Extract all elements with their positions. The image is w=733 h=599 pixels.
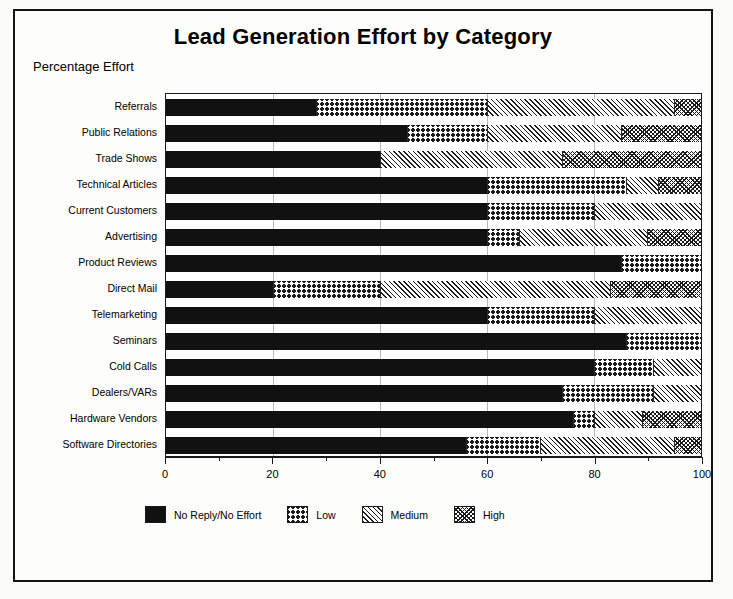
bar-segment [653, 359, 701, 376]
legend-item: Low [287, 506, 335, 523]
bar-segment [653, 385, 701, 402]
category-label: Cold Calls [15, 353, 163, 379]
bar-segment [674, 437, 701, 454]
category-label: Seminars [15, 327, 163, 353]
diagonal-hatch-swatch [362, 506, 383, 523]
stacked-bar [166, 177, 701, 194]
bar-segment [166, 359, 594, 376]
bar-segment [316, 99, 487, 116]
bar-segment [466, 437, 541, 454]
bar-segment [610, 281, 701, 298]
bar-segment [594, 203, 701, 220]
x-tick-major [272, 457, 273, 464]
x-tick-major [165, 457, 166, 464]
legend-item: Medium [362, 506, 428, 523]
x-tick-label: 60 [481, 468, 493, 480]
x-tick-major [487, 457, 488, 464]
category-label: Advertising [15, 223, 163, 249]
bar-segment [674, 99, 701, 116]
bar-segment [166, 333, 626, 350]
category-label: Referrals [15, 93, 163, 119]
stacked-bar [166, 411, 701, 428]
bar-row [166, 94, 701, 120]
bar-segment [166, 99, 316, 116]
stacked-bar [166, 99, 701, 116]
bar-segment [166, 307, 487, 324]
bar-row [166, 276, 701, 302]
bar-segment [166, 229, 487, 246]
bar-segment [407, 125, 487, 142]
bar-row [166, 250, 701, 276]
stacked-bar [166, 125, 701, 142]
category-label: Trade Shows [15, 145, 163, 171]
chart-frame: Lead Generation Effort by Category Perce… [13, 9, 713, 582]
bar-row [166, 328, 701, 354]
stacked-bar [166, 385, 701, 402]
bar-row [166, 302, 701, 328]
category-label: Software Directories [15, 431, 163, 457]
stacked-bar [166, 307, 701, 324]
legend-label: No Reply/No Effort [174, 509, 261, 521]
category-label: Public Relations [15, 119, 163, 145]
bar-row [166, 380, 701, 406]
category-label: Telemarketing [15, 301, 163, 327]
dense-hatch-swatch [454, 506, 475, 523]
bar-row [166, 120, 701, 146]
bar-segment [594, 411, 642, 428]
bar-segment [166, 255, 621, 272]
bar-segment [626, 333, 701, 350]
bar-segment [658, 177, 701, 194]
bar-segment [562, 385, 653, 402]
category-label: Product Reviews [15, 249, 163, 275]
stacked-bar [166, 281, 701, 298]
x-tick-minor [219, 457, 220, 461]
bar-segment [487, 177, 626, 194]
bar-segment [540, 437, 674, 454]
bar-segment [380, 151, 562, 168]
chart-page: Lead Generation Effort by Category Perce… [0, 0, 733, 599]
stacked-bar [166, 229, 701, 246]
bar-segment [626, 177, 658, 194]
chart-legend: No Reply/No EffortLowMediumHigh [145, 506, 531, 523]
bar-segment [621, 255, 701, 272]
stacked-bar [166, 151, 701, 168]
bar-segment [573, 411, 594, 428]
category-axis: ReferralsPublic RelationsTrade ShowsTech… [15, 93, 163, 457]
category-label: Current Customers [15, 197, 163, 223]
stacked-bar [166, 255, 701, 272]
x-tick-minor [648, 457, 649, 461]
bar-row [166, 198, 701, 224]
bar-segment [166, 177, 487, 194]
x-tick-minor [541, 457, 542, 461]
category-label: Technical Articles [15, 171, 163, 197]
x-tick-label: 40 [374, 468, 386, 480]
bar-segment [380, 281, 610, 298]
bar-row [166, 146, 701, 172]
category-label: Hardware Vendors [15, 405, 163, 431]
x-tick-minor [326, 457, 327, 461]
bar-segment [642, 411, 701, 428]
category-label: Direct Mail [15, 275, 163, 301]
bar-segment [166, 385, 562, 402]
bar-segment [562, 151, 701, 168]
legend-item: High [454, 506, 505, 523]
stacked-bar [166, 203, 701, 220]
legend-label: High [483, 509, 505, 521]
bar-segment [594, 307, 701, 324]
crosshatch-swatch [287, 506, 308, 523]
plot-area [165, 93, 702, 457]
bar-series-container [166, 94, 701, 456]
legend-item: No Reply/No Effort [145, 506, 261, 523]
bar-row [166, 406, 701, 432]
legend-label: Low [316, 509, 335, 521]
solid-black-swatch [145, 506, 166, 523]
bar-segment [487, 125, 621, 142]
x-tick-label: 100 [693, 468, 711, 480]
stacked-bar [166, 333, 701, 350]
x-tick-major [702, 457, 703, 464]
bar-segment [487, 307, 594, 324]
bar-segment [487, 99, 674, 116]
legend-label: Medium [391, 509, 428, 521]
bar-segment [647, 229, 701, 246]
bar-segment [594, 359, 653, 376]
